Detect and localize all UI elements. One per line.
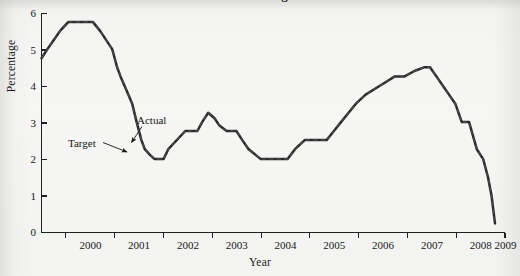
x-tick-label-2006: 2006 <box>359 239 408 251</box>
series-target-line <box>42 22 496 224</box>
annotation-leaders <box>103 127 142 153</box>
y-tick-label-6: 6 <box>22 7 36 19</box>
x-tick-label-2000: 2000 <box>66 239 115 251</box>
y-tick-label-0: 0 <box>22 226 36 238</box>
y-axis-title: Percentage <box>5 26 23 106</box>
y-axis-ticks <box>42 14 47 233</box>
x-tick-label-2005: 2005 <box>310 239 359 251</box>
chart-figure: Federal Funds Rate: Target versus Actual <box>0 0 520 276</box>
target-leader-line <box>103 143 127 153</box>
annotation-target: Target <box>68 137 96 149</box>
x-tick-label-2003: 2003 <box>212 239 261 251</box>
x-axis-title: Year <box>0 256 520 268</box>
x-tick-label-2009: 2009 <box>481 239 520 251</box>
x-tick-label-2001: 2001 <box>115 239 164 251</box>
y-tick-label-2: 2 <box>22 153 36 165</box>
series-actual-line <box>42 22 496 224</box>
y-tick-label-5: 5 <box>22 44 36 56</box>
y-tick-label-1: 1 <box>22 190 36 202</box>
x-tick-label-2002: 2002 <box>164 239 213 251</box>
x-axis-ticks <box>66 233 505 238</box>
x-tick-label-2004: 2004 <box>261 239 310 251</box>
y-tick-label-4: 4 <box>22 80 36 92</box>
x-tick-label-2007: 2007 <box>408 239 457 251</box>
annotation-actual: Actual <box>137 114 166 126</box>
y-tick-label-3: 3 <box>22 117 36 129</box>
